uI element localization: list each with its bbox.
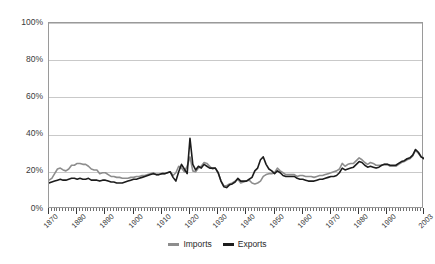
y-tick-label: 20% <box>26 166 43 175</box>
x-tick-minor <box>138 208 139 211</box>
x-tick-minor <box>344 208 345 211</box>
x-tick-minor <box>73 208 74 211</box>
x-tick-minor <box>68 208 69 211</box>
x-tick-minor <box>186 208 187 211</box>
x-tick-minor <box>412 208 413 211</box>
legend-item-imports[interactable]: Imports <box>168 240 211 249</box>
x-tick-minor <box>212 208 213 211</box>
x-tick-major <box>133 208 134 214</box>
x-tick-label: 1910 <box>155 213 172 230</box>
x-tick-minor <box>62 208 63 211</box>
x-tick-minor <box>65 208 66 211</box>
x-tick-minor <box>265 208 266 211</box>
x-tick-major <box>76 208 77 214</box>
x-tick-minor <box>206 208 207 211</box>
x-tick-minor <box>338 208 339 211</box>
x-tick-minor <box>102 208 103 211</box>
x-tick-minor <box>178 208 179 211</box>
x-tick-major <box>217 208 218 214</box>
x-tick-minor <box>257 208 258 211</box>
x-tick-minor <box>130 208 131 211</box>
y-axis: 0%20%40%60%80%100% <box>0 0 48 214</box>
x-tick-minor <box>400 208 401 211</box>
x-tick-minor <box>369 208 370 211</box>
x-tick-minor <box>353 208 354 211</box>
x-tick-minor <box>415 208 416 211</box>
x-tick-minor <box>313 208 314 211</box>
x-tick-major <box>386 208 387 214</box>
x-tick-minor <box>79 208 80 211</box>
legend-label: Exports <box>238 240 267 249</box>
x-tick-minor <box>121 208 122 211</box>
x-tick-minor <box>417 208 418 211</box>
x-tick-minor <box>155 208 156 211</box>
x-tick-label: 1970 <box>324 213 341 230</box>
x-tick-minor <box>333 208 334 211</box>
x-axis: 1870188018901900191019201930194019501960… <box>48 208 423 264</box>
x-tick-minor <box>327 208 328 211</box>
x-tick-minor <box>392 208 393 211</box>
x-tick-minor <box>51 208 52 211</box>
x-tick-label: 1980 <box>352 213 369 230</box>
y-tick-label: 60% <box>26 92 43 101</box>
x-tick-minor <box>203 208 204 211</box>
x-tick-minor <box>251 208 252 211</box>
x-tick-major <box>189 208 190 214</box>
x-tick-minor <box>367 208 368 211</box>
x-tick-minor <box>166 208 167 211</box>
x-tick-minor <box>398 208 399 211</box>
x-tick-label: 1940 <box>240 213 257 230</box>
x-tick-minor <box>197 208 198 211</box>
x-tick-minor <box>355 208 356 211</box>
x-tick-minor <box>350 208 351 211</box>
x-tick-minor <box>299 208 300 211</box>
x-tick-minor <box>90 208 91 211</box>
x-tick-minor <box>276 208 277 211</box>
x-tick-minor <box>228 208 229 211</box>
y-tick-label: 80% <box>26 55 43 64</box>
x-tick-minor <box>54 208 55 211</box>
x-tick-minor <box>364 208 365 211</box>
x-tick-minor <box>316 208 317 211</box>
x-tick-minor <box>150 208 151 211</box>
x-tick-minor <box>288 208 289 211</box>
x-tick-minor <box>82 208 83 211</box>
series-line-exports <box>49 138 424 187</box>
x-tick-label: 1930 <box>212 213 229 230</box>
x-tick-minor <box>110 208 111 211</box>
x-tick-minor <box>107 208 108 211</box>
x-tick-label: 1900 <box>127 213 144 230</box>
trade-share-line-chart: 0%20%40%60%80%100% 187018801890190019101… <box>0 0 435 264</box>
x-tick-minor <box>118 208 119 211</box>
x-tick-minor <box>237 208 238 211</box>
x-tick-label: 1990 <box>381 213 398 230</box>
x-tick-minor <box>384 208 385 211</box>
x-tick-minor <box>279 208 280 211</box>
x-tick-minor <box>248 208 249 211</box>
x-tick-minor <box>234 208 235 211</box>
x-tick-minor <box>296 208 297 211</box>
chart-legend: ImportsExports <box>0 240 435 249</box>
x-tick-minor <box>93 208 94 211</box>
legend-item-exports[interactable]: Exports <box>223 240 267 249</box>
x-tick-minor <box>85 208 86 211</box>
x-tick-major <box>161 208 162 214</box>
x-tick-minor <box>56 208 57 211</box>
x-tick-minor <box>164 208 165 211</box>
x-tick-minor <box>192 208 193 211</box>
x-tick-minor <box>406 208 407 211</box>
x-tick-minor <box>347 208 348 211</box>
x-tick-minor <box>195 208 196 211</box>
x-tick-minor <box>403 208 404 211</box>
x-tick-minor <box>124 208 125 211</box>
x-tick-minor <box>409 208 410 211</box>
x-tick-label: 1880 <box>71 213 88 230</box>
x-tick-minor <box>231 208 232 211</box>
x-tick-major <box>245 208 246 214</box>
x-tick-minor <box>135 208 136 211</box>
x-tick-minor <box>209 208 210 211</box>
x-tick-minor <box>59 208 60 211</box>
x-tick-major <box>48 208 49 214</box>
x-tick-minor <box>420 208 421 211</box>
x-tick-minor <box>183 208 184 211</box>
